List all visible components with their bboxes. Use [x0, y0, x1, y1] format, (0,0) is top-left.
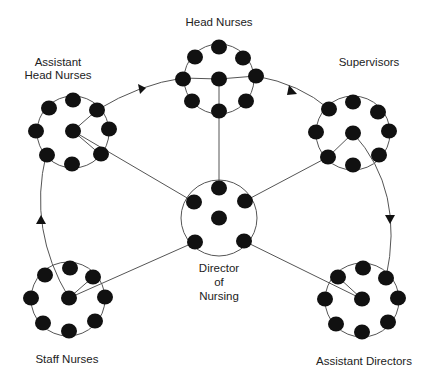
node — [23, 291, 39, 306]
node — [378, 271, 394, 286]
node — [345, 95, 361, 110]
nodes-assistant-directors — [317, 261, 406, 340]
node — [235, 51, 251, 66]
node — [28, 124, 44, 139]
node — [65, 93, 81, 108]
node — [211, 104, 227, 119]
spoke-to-assistant-head-nurses — [73, 131, 194, 202]
node — [355, 261, 371, 276]
node — [89, 103, 105, 118]
spoke-to-assistant-directors — [244, 241, 362, 299]
node-hub — [345, 126, 361, 141]
nodes-director-of-nursing — [186, 181, 253, 250]
node-hub — [354, 292, 370, 307]
spoke-to-staff-nurses — [69, 242, 195, 298]
node — [381, 124, 397, 139]
node — [61, 324, 77, 339]
node — [380, 315, 396, 330]
arrow-right-icon — [138, 84, 146, 94]
nursing-organization-diagram: Head Nurses Assistant Head Nurses Superv… — [0, 0, 431, 385]
nodes-staff-nurses — [23, 261, 113, 339]
node-hub — [211, 211, 227, 226]
node — [211, 40, 227, 55]
label-staff-nurses: Staff Nurses — [35, 353, 98, 365]
node — [39, 148, 55, 163]
label-director-line2: of — [214, 276, 224, 288]
node — [93, 147, 109, 162]
node — [187, 50, 203, 65]
node-hub — [211, 72, 227, 87]
nodes-assistant-head-nurses — [28, 93, 117, 172]
node — [317, 292, 333, 307]
nodes-head-nurses — [175, 40, 264, 119]
node — [184, 94, 200, 109]
label-assistant-head-nurses-line2: Head Nurses — [24, 69, 91, 81]
node — [237, 194, 253, 209]
arrow-down-icon — [385, 215, 395, 224]
node — [41, 101, 57, 116]
node — [62, 261, 78, 276]
node — [101, 122, 117, 137]
node — [328, 317, 344, 332]
node — [236, 234, 252, 249]
label-director-line1: Director — [199, 262, 239, 274]
node-hub — [65, 124, 81, 139]
node — [320, 150, 336, 165]
node — [371, 148, 387, 163]
label-head-nurses: Head Nurses — [185, 16, 252, 28]
label-supervisors: Supervisors — [339, 56, 400, 68]
node — [35, 316, 51, 331]
label-director-line3: Nursing — [199, 290, 239, 302]
node — [345, 158, 361, 173]
spoke-to-supervisors — [245, 157, 328, 201]
node — [175, 72, 191, 87]
node — [321, 102, 337, 117]
node — [330, 270, 346, 285]
label-assistant-head-nurses-line1: Assistant — [35, 56, 82, 68]
node — [308, 125, 324, 140]
arrow-up-icon — [36, 215, 46, 224]
node — [211, 181, 227, 196]
nodes-supervisors — [308, 95, 397, 173]
node-hub — [61, 291, 77, 306]
node — [87, 314, 103, 329]
node — [248, 69, 264, 84]
node — [186, 195, 202, 210]
label-assistant-directors: Assistant Directors — [316, 355, 412, 367]
node — [390, 291, 406, 306]
node — [187, 235, 203, 250]
node — [97, 290, 113, 305]
node — [64, 157, 80, 172]
node — [354, 325, 370, 340]
node — [238, 94, 254, 109]
node — [370, 105, 386, 120]
node — [37, 268, 53, 283]
node — [85, 270, 101, 285]
